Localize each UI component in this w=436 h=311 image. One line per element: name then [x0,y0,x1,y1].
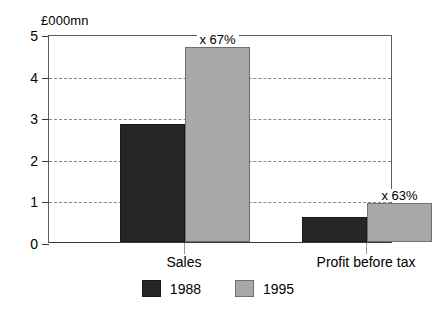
legend-swatch-1988 [142,280,161,297]
bar-sales-1995 [185,47,250,242]
y-axis-tick-label: 4 [18,71,38,85]
category-label: Profit before tax [317,255,416,269]
y-axis-tick [42,161,49,162]
legend-item-1988: 1988 [142,280,201,297]
y-axis-tick [42,244,49,245]
growth-annotation: x 63% [378,189,420,202]
bar-sales-1988 [120,124,185,242]
category-tick [366,243,367,254]
bar-chart-figure: £000mn 012345x 67%x 63% SalesProfit befo… [0,0,436,311]
y-axis-tick-label: 2 [18,154,38,168]
y-axis-tick-label: 3 [18,112,38,126]
y-axis-tick-label: 1 [18,195,38,209]
y-axis-tick [42,78,49,79]
bar-profit-before-tax-1988 [302,217,367,242]
category-tick [184,243,185,254]
bar-profit-before-tax-1995 [367,203,432,242]
category-label: Sales [166,255,201,269]
legend-label-1988: 1988 [170,282,201,296]
y-axis-unit-caption: £000mn [41,13,89,28]
legend-swatch-1995 [235,280,254,297]
plot-area: 012345x 67%x 63% [48,35,392,243]
y-axis-tick-label: 0 [18,237,38,251]
legend-label-1995: 1995 [263,282,294,296]
legend-item-1995: 1995 [235,280,294,297]
y-axis-tick-label: 5 [18,29,38,43]
chart-legend: 19881995 [0,280,436,297]
y-axis-tick [42,36,49,37]
y-axis-tick [42,119,49,120]
y-axis-tick [42,202,49,203]
growth-annotation: x 67% [196,33,238,46]
